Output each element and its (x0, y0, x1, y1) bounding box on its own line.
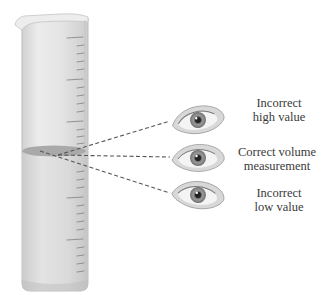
liquid-meniscus (22, 146, 86, 157)
eye-icon-correct (172, 144, 224, 171)
label-low-line2: low value (236, 200, 322, 214)
label-incorrect-high: Incorrect high value (236, 96, 322, 124)
label-low-line1: Incorrect (236, 186, 322, 200)
label-correct-line2: measurement (222, 159, 332, 173)
label-incorrect-low: Incorrect low value (236, 186, 322, 214)
eye-icon-high (170, 103, 225, 137)
label-high-line1: Incorrect (236, 96, 322, 110)
label-correct-line1: Correct volume (222, 145, 332, 159)
label-high-line2: high value (236, 110, 322, 124)
label-correct-measurement: Correct volume measurement (222, 145, 332, 173)
graduated-cylinder (15, 14, 88, 291)
eye-icon-low (170, 178, 225, 212)
